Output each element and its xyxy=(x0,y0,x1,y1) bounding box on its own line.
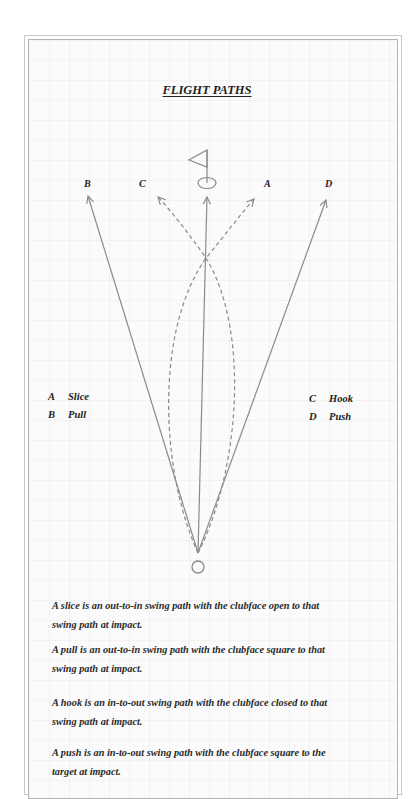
path-label-c: C xyxy=(139,178,146,189)
legend-row-pull: B Pull xyxy=(48,406,89,424)
path-label-d: D xyxy=(325,178,332,189)
golf-ball-icon xyxy=(192,561,204,573)
description-line: A slice is an out-to-in swing path with … xyxy=(52,596,372,615)
path-label-b: B xyxy=(84,178,91,189)
legend-right: C Hook D Push xyxy=(309,390,353,426)
description-line: A pull is an out-to-in swing path with t… xyxy=(52,640,372,659)
pull-path-line xyxy=(88,196,198,553)
push-path-line xyxy=(198,200,326,553)
legend-key: D xyxy=(309,408,329,426)
legend-key: A xyxy=(48,388,68,406)
description-line: target at impact. xyxy=(52,762,372,781)
description-line: swing path at impact. xyxy=(52,615,372,634)
legend-label: Pull xyxy=(68,406,86,424)
description-hook: A hook is an in-to-out swing path with t… xyxy=(52,693,372,731)
legend-key: B xyxy=(48,406,68,424)
legend-label: Push xyxy=(329,408,351,426)
description-pull: A pull is an out-to-in swing path with t… xyxy=(52,640,372,678)
description-line: A push is an in-to-out swing path with t… xyxy=(52,743,372,762)
description-slice: A slice is an out-to-in swing path with … xyxy=(52,596,372,634)
hook-path-curve xyxy=(158,197,235,553)
legend-label: Slice xyxy=(68,388,89,406)
straight-path-line xyxy=(198,197,207,553)
legend-label: Hook xyxy=(329,390,353,408)
legend-row-push: D Push xyxy=(309,408,353,426)
legend-row-slice: A Slice xyxy=(48,388,89,406)
description-line: swing path at impact. xyxy=(52,712,372,731)
description-line: swing path at impact. xyxy=(52,659,372,678)
description-line: A hook is an in-to-out swing path with t… xyxy=(52,693,372,712)
legend-row-hook: C Hook xyxy=(309,390,353,408)
path-label-a: A xyxy=(264,178,271,189)
legend-key: C xyxy=(309,390,329,408)
description-push: A push is an in-to-out swing path with t… xyxy=(52,743,372,781)
legend-left: A Slice B Pull xyxy=(48,388,89,424)
